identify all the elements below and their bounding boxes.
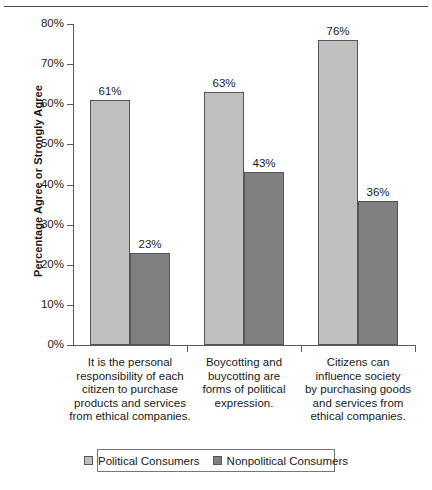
bar: [90, 100, 130, 345]
plot-area: 61%23%63%43%76%36%: [73, 24, 415, 345]
y-axis-tick-label: 70%: [2, 58, 64, 69]
y-axis-tick-label: 40%: [2, 179, 64, 190]
bar-value-label: 43%: [234, 157, 294, 169]
x-axis-category-label: Boycotting and buycotting are forms of p…: [183, 356, 305, 410]
legend-entry: Nonpolitical Consumers: [213, 455, 348, 467]
bar-value-label: 23%: [120, 238, 180, 250]
legend-color-swatch: [84, 456, 93, 465]
chart-legend: Political ConsumersNonpolitical Consumer…: [97, 449, 335, 472]
bar-value-label: 63%: [194, 77, 254, 89]
bar-value-label: 76%: [308, 25, 368, 37]
y-axis-tick-label: 10%: [2, 299, 64, 310]
x-axis-separator-tick: [301, 345, 302, 352]
y-axis-tick-label: 30%: [2, 219, 64, 230]
x-axis-category-label: It is the personal responsibility of eac…: [69, 356, 191, 424]
y-axis-tick-label: 50%: [2, 138, 64, 149]
y-axis-tick-label: 0%: [2, 339, 64, 350]
x-axis-separator-tick: [187, 345, 188, 352]
x-axis-end-tick: [415, 345, 416, 352]
bar: [244, 172, 284, 345]
bar-chart-figure: Percentage Agree or Strongly Agree 0%10%…: [0, 0, 432, 490]
legend-label: Nonpolitical Consumers: [227, 455, 348, 467]
legend-color-swatch: [213, 456, 222, 465]
bar-value-label: 61%: [80, 85, 140, 97]
legend-label: Political Consumers: [98, 455, 200, 467]
legend-entry: Political Consumers: [84, 455, 200, 467]
x-axis-category-label: Citizens can influence society by purcha…: [297, 356, 419, 424]
y-axis-tick-label: 20%: [2, 259, 64, 270]
y-axis-tick-label: 60%: [2, 98, 64, 109]
bar: [130, 253, 170, 345]
bar-value-label: 36%: [348, 186, 408, 198]
bar: [358, 201, 398, 345]
x-axis-line: [73, 345, 416, 346]
bar: [204, 92, 244, 345]
page-rule-divider: [4, 6, 428, 7]
y-axis-tick-label: 80%: [2, 18, 64, 29]
